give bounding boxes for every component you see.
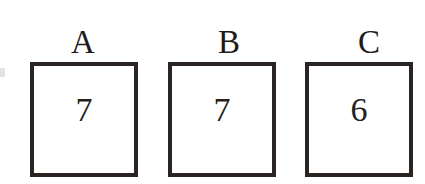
box-frame-c[interactable]: 6: [305, 62, 413, 177]
scan-artifact: [0, 68, 5, 77]
box-frame-a[interactable]: 7: [30, 62, 138, 177]
box-value-c: 6: [309, 90, 409, 130]
box-value-b: 7: [172, 90, 272, 130]
box-label-b: B: [176, 22, 282, 62]
box-value-a: 7: [34, 90, 134, 130]
box-label-c: C: [316, 22, 422, 62]
figure-canvas: A 7 B 7 C 6: [0, 0, 425, 184]
box-frame-b[interactable]: 7: [168, 62, 276, 177]
box-label-a: A: [30, 22, 136, 62]
